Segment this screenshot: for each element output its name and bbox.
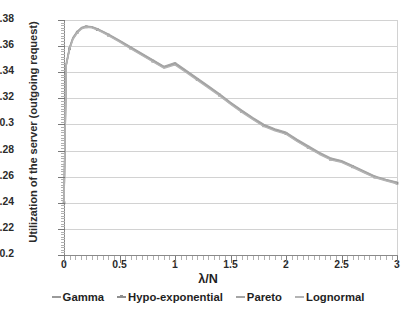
y-minor-tick — [61, 122, 65, 123]
x-minor-tick — [147, 256, 148, 260]
x-minor-tick — [353, 256, 354, 260]
x-minor-tick — [336, 256, 337, 260]
y-minor-tick — [61, 70, 65, 71]
legend-item[interactable]: Pareto — [236, 291, 282, 303]
series-line — [64, 26, 397, 203]
y-minor-tick — [61, 33, 65, 34]
y-minor-tick — [61, 185, 65, 186]
y-minor-tick — [61, 127, 65, 128]
legend-marker-icon — [236, 296, 245, 298]
y-major-tick — [58, 203, 65, 204]
x-major-tick — [64, 256, 65, 263]
y-minor-tick — [61, 216, 65, 217]
legend-label: Lognormal — [306, 291, 364, 303]
x-major-tick — [397, 256, 398, 263]
y-minor-tick — [61, 213, 65, 214]
x-minor-tick — [169, 256, 170, 260]
x-major-tick — [231, 256, 232, 263]
y-major-tick — [58, 124, 65, 125]
y-minor-tick — [61, 232, 65, 233]
x-major-tick — [286, 256, 287, 263]
x-minor-tick — [281, 256, 282, 260]
x-minor-tick — [319, 256, 320, 260]
x-minor-tick — [242, 256, 243, 260]
y-tick-label: 0.24 — [0, 196, 14, 207]
y-minor-tick — [61, 114, 65, 115]
y-tick-label: 0.38 — [0, 13, 14, 24]
y-minor-tick — [61, 245, 65, 246]
x-minor-tick — [114, 256, 115, 260]
y-minor-tick — [61, 242, 65, 243]
y-minor-tick — [61, 49, 65, 50]
y-minor-tick — [61, 41, 65, 42]
x-minor-tick — [303, 256, 304, 260]
x-minor-tick — [330, 256, 331, 260]
x-minor-tick — [375, 256, 376, 260]
x-minor-tick — [97, 256, 98, 260]
y-minor-tick — [61, 218, 65, 219]
y-minor-tick — [61, 138, 65, 139]
x-minor-tick — [253, 256, 254, 260]
y-minor-tick — [61, 104, 65, 105]
y-minor-tick — [61, 25, 65, 26]
x-minor-tick — [269, 256, 270, 260]
x-minor-tick — [325, 256, 326, 260]
legend-item[interactable]: Lognormal — [295, 291, 364, 303]
y-minor-tick — [61, 145, 65, 146]
x-minor-tick — [153, 256, 154, 260]
y-minor-tick — [61, 247, 65, 248]
x-minor-tick — [258, 256, 259, 260]
x-minor-tick — [392, 256, 393, 260]
x-minor-tick — [86, 256, 87, 260]
series-line — [64, 27, 397, 203]
x-minor-tick — [236, 256, 237, 260]
y-minor-tick — [61, 83, 65, 84]
x-minor-tick — [386, 256, 387, 260]
y-tick-label: 0.26 — [0, 170, 14, 181]
y-minor-tick — [61, 77, 65, 78]
y-minor-tick — [61, 85, 65, 86]
x-minor-tick — [292, 256, 293, 260]
y-minor-tick — [61, 252, 65, 253]
x-major-tick — [342, 256, 343, 263]
y-minor-tick — [61, 224, 65, 225]
x-minor-tick — [275, 256, 276, 260]
legend-item[interactable]: Hypo-exponential — [117, 291, 223, 303]
y-major-tick — [58, 46, 65, 47]
x-minor-tick — [358, 256, 359, 260]
x-minor-tick — [203, 256, 204, 260]
y-minor-tick — [61, 179, 65, 180]
x-minor-tick — [131, 256, 132, 260]
x-minor-tick — [103, 256, 104, 260]
y-minor-tick — [61, 195, 65, 196]
chart-legend: GammaHypo-exponentialParetoLognormal — [0, 291, 416, 303]
y-minor-tick — [61, 88, 65, 89]
y-tick-label: 0.28 — [0, 144, 14, 155]
legend-marker-icon — [295, 296, 304, 298]
y-minor-tick — [61, 182, 65, 183]
legend-label: Hypo-exponential — [128, 291, 223, 303]
y-tick-label: 0.3 — [0, 117, 14, 128]
x-minor-tick — [192, 256, 193, 260]
y-minor-tick — [61, 208, 65, 209]
y-minor-tick — [61, 119, 65, 120]
x-minor-tick — [70, 256, 71, 260]
y-minor-tick — [61, 62, 65, 63]
x-minor-tick — [264, 256, 265, 260]
y-minor-tick — [61, 57, 65, 58]
plot-area — [64, 20, 397, 255]
plot-right-border — [397, 20, 398, 256]
x-minor-tick — [308, 256, 309, 260]
y-minor-tick — [61, 200, 65, 201]
y-minor-tick — [61, 23, 65, 24]
y-minor-tick — [61, 67, 65, 68]
legend-label: Pareto — [247, 291, 282, 303]
y-minor-tick — [61, 96, 65, 97]
y-minor-tick — [61, 101, 65, 102]
y-tick-label: 0.32 — [0, 91, 14, 102]
legend-item[interactable]: Gamma — [52, 291, 104, 303]
y-major-tick — [58, 151, 65, 152]
x-axis-title: λ/N — [0, 272, 416, 286]
y-minor-tick — [61, 161, 65, 162]
x-minor-tick — [136, 256, 137, 260]
